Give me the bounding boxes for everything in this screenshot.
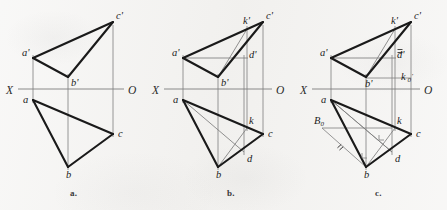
panel-b: XOa'b'c'k'd'abckd — [151, 10, 285, 180]
vertex-label-c-prime-b: c' — [266, 10, 274, 21]
vertex-label-k-c: k — [397, 115, 402, 126]
vertex-label-c-b: c — [268, 128, 273, 139]
axis-label-o-b: O — [276, 84, 285, 96]
vertex-label-b-prime-c: b' — [365, 78, 373, 89]
k0-prime-prime: ' — [412, 72, 414, 80]
vertex-label-b-a: b — [66, 169, 71, 180]
edge-ap-bp-c — [331, 58, 366, 77]
axis-label-o-c: O — [424, 84, 433, 96]
panel-caption-a: a. — [70, 188, 77, 198]
vertex-label-k-prime-c: k' — [391, 15, 399, 26]
projection-drawing-canvas: XOa'b'c'abcXOa'b'c'k'd'abckdXOk0'B0a'b'c… — [0, 0, 447, 210]
edge-a-b-a — [33, 100, 68, 167]
panel-caption-b: b. — [227, 188, 235, 198]
vertex-label-c-c: c — [416, 128, 421, 139]
edge-b-c-a — [68, 134, 113, 167]
vertex-label-b-prime-b: b' — [221, 77, 229, 88]
axis-label-x-c: X — [299, 84, 308, 96]
vertex-label-d-c: d — [395, 153, 401, 164]
edge-b-c-b — [218, 134, 263, 167]
tick-b0-segment-b — [339, 147, 343, 150]
tick-b0-segment-a — [337, 144, 341, 147]
vertex-label-k-prime-b: k' — [243, 15, 251, 26]
vertex-label-b-b: b — [216, 169, 221, 180]
vertex-label-k-b: k — [249, 115, 254, 126]
panel-caption-c: c. — [375, 188, 382, 198]
vertex-label-d-b: d — [247, 153, 253, 164]
vertex-label-a-b: a — [173, 94, 178, 105]
k0-prime-letter: k — [401, 71, 406, 82]
axis-label-o-a: O — [128, 84, 137, 96]
right-angle-d-c — [379, 135, 384, 140]
vertex-label-a-a: a — [23, 94, 28, 105]
edge-ap-bp-a — [33, 58, 68, 77]
vertex-label-d-prime-c: d' — [397, 49, 405, 60]
vertex-label-a-prime-b: a' — [172, 47, 180, 58]
vertex-label-a-prime-c: a' — [320, 47, 328, 58]
vertex-label-b-prime-a: b' — [71, 77, 79, 88]
edge-cp-ap-a — [33, 22, 113, 58]
geometry-figure: XOa'b'c'abcXOa'b'c'k'd'abckdXOk0'B0a'b'c… — [0, 0, 447, 210]
vertex-label-c-prime-a: c' — [116, 10, 124, 21]
k0-prime-label-c: k0' — [401, 71, 414, 84]
b0-subscript: 0 — [321, 120, 325, 128]
edge-a-b-c — [331, 100, 366, 167]
edge-c-a-a — [33, 100, 113, 134]
vertex-label-a-c: a — [321, 94, 326, 105]
edge-a-b-b — [183, 100, 218, 167]
panel-c: XOk0'B0a'b'c'k'd'abckd — [299, 10, 433, 180]
edge-bp-cp-a — [68, 22, 113, 77]
vertex-label-c-a: c — [118, 128, 123, 139]
edge-b-c-c — [366, 134, 411, 167]
vertex-label-b-c: b — [364, 169, 369, 180]
b0-to-b-c — [322, 128, 366, 167]
panel-a: XOa'b'c'abc — [5, 10, 137, 180]
vertex-label-a-prime-a: a' — [22, 47, 30, 58]
axis-label-x-a: X — [5, 84, 14, 96]
vertex-label-d-prime-b: d' — [249, 49, 257, 60]
b0-label-c: B0 — [314, 115, 325, 128]
tick-b0-segment-c — [337, 144, 343, 150]
axis-label-x-b: X — [151, 84, 160, 96]
edge-ap-bp-b — [183, 58, 218, 77]
vertex-label-c-prime-c: c' — [414, 10, 422, 21]
